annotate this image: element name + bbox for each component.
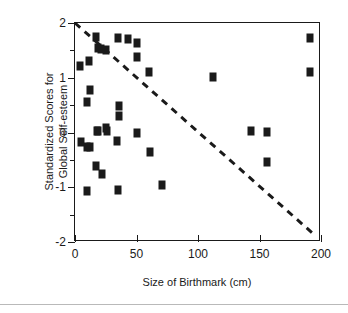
data-point	[99, 170, 106, 179]
data-point	[113, 137, 120, 146]
x-axis-tick-label: 100	[188, 248, 208, 260]
data-point	[159, 180, 166, 189]
x-axis-tick	[321, 235, 322, 242]
data-point	[263, 127, 270, 136]
data-point	[115, 33, 122, 42]
page-divider	[0, 304, 348, 305]
data-point	[84, 97, 91, 106]
y-axis-tick-label: -1	[55, 181, 66, 193]
y-axis-tick	[68, 133, 75, 134]
data-point	[306, 34, 313, 43]
data-point	[306, 68, 313, 77]
y-axis-tick	[68, 242, 75, 243]
data-point	[76, 61, 83, 70]
x-axis-tick-label: 150	[249, 248, 269, 260]
x-axis-tick	[75, 235, 76, 242]
data-point	[85, 57, 92, 66]
x-axis-tick	[260, 235, 261, 242]
y-axis-minor-tick	[70, 215, 75, 216]
data-point	[133, 38, 140, 47]
data-point	[133, 52, 140, 61]
data-point	[133, 128, 140, 137]
x-axis-title: Size of Birthmark (cm)	[74, 276, 320, 288]
y-axis-title-line-1: Standardized Scores for	[43, 73, 55, 191]
x-axis-tick-label: 200	[311, 248, 331, 260]
data-point	[145, 68, 152, 77]
y-axis-tick	[68, 187, 75, 188]
data-point	[263, 158, 270, 167]
y-axis-tick	[68, 23, 75, 24]
x-axis-tick-label: 50	[130, 248, 143, 260]
y-axis-minor-tick	[70, 160, 75, 161]
y-axis-tick-label: -2	[55, 236, 66, 248]
data-point	[102, 46, 109, 55]
data-point	[103, 127, 110, 136]
data-point	[147, 147, 154, 156]
data-point	[209, 73, 216, 82]
y-axis-tick-label: 2	[59, 17, 66, 29]
data-point	[86, 86, 93, 95]
data-point	[124, 35, 131, 44]
data-points-layer	[75, 23, 319, 240]
y-axis-tick	[68, 78, 75, 79]
y-axis-minor-tick	[70, 105, 75, 106]
data-point	[95, 127, 102, 136]
data-point	[92, 33, 99, 42]
y-axis-tick-label: 1	[59, 72, 66, 84]
data-point	[115, 185, 122, 194]
y-axis-minor-tick	[70, 50, 75, 51]
x-axis-tick	[198, 235, 199, 242]
data-point	[84, 186, 91, 195]
x-axis-tick	[137, 235, 138, 242]
data-point	[86, 143, 93, 152]
scatter-plot-figure: Standardized Scores for Global Self-este…	[0, 0, 348, 313]
data-point	[247, 126, 254, 135]
plot-area: -2-1012 050100150200	[74, 22, 320, 241]
y-axis-tick-label: 0	[59, 127, 66, 139]
data-point	[116, 111, 123, 120]
data-point	[116, 101, 123, 110]
x-axis-tick-label: 0	[72, 248, 79, 260]
y-axis-title: Standardized Scores for Global Self-este…	[38, 22, 76, 241]
